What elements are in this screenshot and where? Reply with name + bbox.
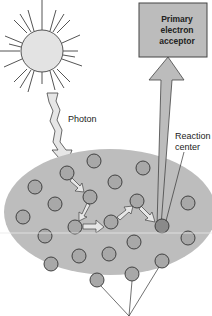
reaction-center-molecule [155,219,169,233]
acceptor-label: Primary electron acceptor [150,14,204,47]
acceptor-label-line1: Primary [150,14,204,25]
acceptor-label-line3: acceptor [150,36,204,47]
acceptor-label-line2: electron [150,25,204,36]
photosystem-diagram [0,0,212,316]
reaction-center-label-line1: Reaction [175,131,211,142]
sun-disc [21,30,63,72]
photon-label: Photon [68,114,97,125]
reaction-center-label-line2: center [175,142,200,153]
